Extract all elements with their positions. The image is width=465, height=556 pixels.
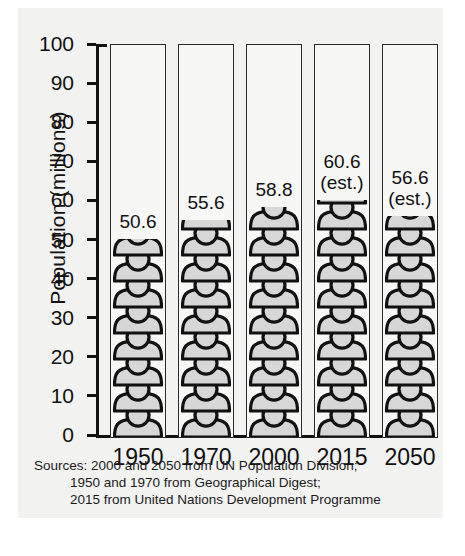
y-tick-label-40: 40 (51, 267, 74, 291)
bar-2015 (317, 200, 367, 437)
bar-column-1970: 55.6 (178, 44, 234, 438)
bar-value-label-2000: 58.8 (256, 179, 293, 200)
bar-column-2050: 56.6(est.) (382, 44, 438, 438)
bar-value-2015: 60.6 (320, 151, 363, 172)
y-tick-70: 70 (87, 160, 96, 163)
y-tick-label-0: 0 (62, 423, 74, 447)
plot-area: 0102030405060708090100 50.655.658.860.6(… (96, 44, 426, 438)
bar-value-1970: 55.6 (188, 192, 225, 213)
y-tick-label-60: 60 (51, 188, 74, 212)
y-tick-50: 50 (87, 238, 96, 241)
bar-2050 (385, 216, 435, 437)
bar-estimate-note-2050: (est.) (388, 188, 431, 209)
bar-value-2000: 58.8 (256, 179, 293, 200)
bar-column-2000: 58.8 (246, 44, 302, 438)
bar-value-1950: 50.6 (120, 211, 157, 232)
bar-2000 (249, 207, 299, 437)
y-axis-spine (96, 44, 99, 438)
y-tick-label-10: 10 (51, 384, 74, 408)
population-bar-chart: Population (millions) 010203040506070809… (0, 0, 465, 556)
bar-column-2015: 60.6(est.) (314, 44, 370, 438)
bar-column-1950: 50.6 (110, 44, 166, 438)
bar-value-label-1950: 50.6 (120, 211, 157, 232)
sources-line-2: 1950 and 1970 from Geographical Digest; (34, 474, 434, 491)
y-axis-top-cap (96, 44, 107, 47)
bar-1970 (181, 220, 231, 437)
y-tick-30: 30 (87, 316, 96, 319)
y-tick-label-100: 100 (39, 32, 74, 56)
y-tick-label-20: 20 (51, 345, 74, 369)
bar-value-label-1970: 55.6 (188, 192, 225, 213)
y-tick-40: 40 (87, 277, 96, 280)
y-tick-80: 80 (87, 121, 96, 124)
y-tick-20: 20 (87, 355, 96, 358)
bar-value-label-2050: 56.6(est.) (388, 167, 431, 209)
bar-value-label-2015: 60.6(est.) (320, 151, 363, 193)
y-tick-0: 0 (87, 434, 96, 437)
y-tick-label-50: 50 (51, 228, 74, 252)
y-tick-100: 100 (87, 43, 96, 46)
bar-1950 (113, 239, 163, 437)
sources-line-3: 2015 from United Nations Development Pro… (34, 491, 434, 508)
y-tick-label-30: 30 (51, 306, 74, 330)
y-tick-label-90: 90 (51, 71, 74, 95)
y-tick-label-70: 70 (51, 149, 74, 173)
bar-value-2050: 56.6 (388, 167, 431, 188)
y-tick-label-80: 80 (51, 110, 74, 134)
y-tick-90: 90 (87, 82, 96, 85)
sources-line-1: Sources: 2000 and 2050 from UN Populatio… (34, 457, 434, 474)
sources-note: Sources: 2000 and 2050 from UN Populatio… (34, 457, 434, 508)
y-tick-60: 60 (87, 199, 96, 202)
bar-estimate-note-2015: (est.) (320, 172, 363, 193)
y-tick-10: 10 (87, 394, 96, 397)
